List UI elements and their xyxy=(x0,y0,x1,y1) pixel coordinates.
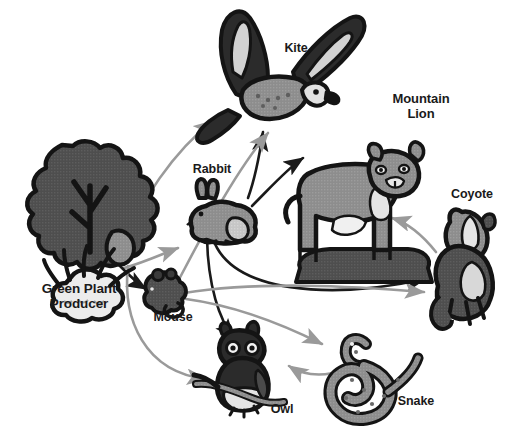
coyote-icon xyxy=(431,210,495,329)
food-web-canvas xyxy=(0,0,507,442)
label-coyote: Coyote xyxy=(441,187,503,201)
mountain-lion-icon xyxy=(286,142,432,282)
label-snake: Snake xyxy=(386,394,446,408)
label-rabbit: Rabbit xyxy=(182,162,242,176)
food-web-diagram: Green Plant Producer Mouse Rabbit Kite M… xyxy=(0,0,507,442)
organism-coyote xyxy=(431,210,495,329)
label-mountain-lion: Mountain Lion xyxy=(378,92,464,121)
label-mouse: Mouse xyxy=(138,310,208,324)
organism-kite xyxy=(197,12,364,143)
organism-mountain-lion xyxy=(286,142,432,282)
rabbit-icon xyxy=(187,179,256,244)
label-green-plant: Green Plant Producer xyxy=(20,281,138,311)
label-kite: Kite xyxy=(268,41,324,55)
organism-rabbit xyxy=(187,179,256,244)
label-owl: Owl xyxy=(258,402,306,416)
kite-bird-icon xyxy=(197,12,364,143)
link-coyote-to-mountain-lion xyxy=(392,218,436,252)
